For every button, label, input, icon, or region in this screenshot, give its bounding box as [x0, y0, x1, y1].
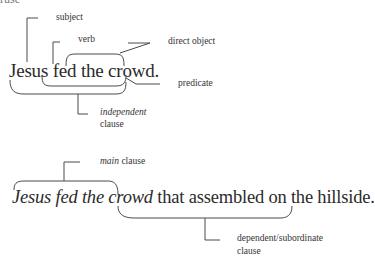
label-predicate: predicate [178, 78, 213, 88]
sentence-2-dependent-clause: that assembled on the hillside. [153, 187, 375, 207]
independent-clause-connector [78, 94, 88, 114]
label-main-clause-word: clause [119, 156, 145, 166]
label-subject: subject [56, 12, 83, 22]
dependent-clause-connector [205, 218, 220, 240]
label-direct-object: direct object [168, 36, 215, 46]
label-main-clause: main clause [100, 156, 145, 166]
label-dependent-clause: clause [237, 246, 261, 256]
main-clause-connector [64, 162, 80, 181]
subject-connector [27, 18, 38, 62]
direct-object-connector [120, 43, 150, 53]
label-verb: verb [78, 34, 95, 44]
sentence-2: Jesus fed the crowd that assembled on th… [12, 187, 375, 208]
label-dependent-subordinate: dependent/subordinate [237, 233, 323, 243]
label-independent-clause: clause [100, 119, 124, 129]
label-independent: independent [100, 107, 146, 117]
label-main-word: main [100, 156, 119, 166]
sentence-2-main-clause: Jesus fed the crowd [12, 187, 153, 207]
independent-clause-bracket [10, 80, 126, 94]
sentence-1: Jesus fed the crowd. [9, 60, 159, 82]
